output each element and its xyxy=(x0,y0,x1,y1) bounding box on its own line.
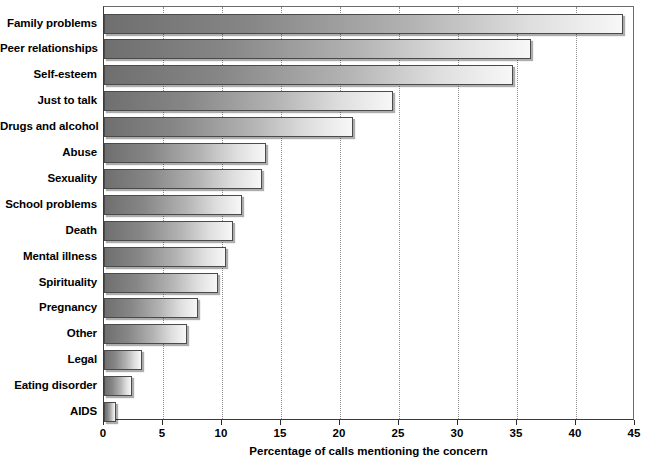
x-tick-label: 30 xyxy=(437,427,477,439)
category-label-other: Other xyxy=(0,323,97,343)
category-label-self-esteem: Self-esteem xyxy=(0,64,97,84)
category-label-sexuality: Sexuality xyxy=(0,168,97,188)
x-tick-label: 40 xyxy=(555,427,595,439)
bar-spirituality xyxy=(104,273,218,293)
bar-row xyxy=(104,221,233,241)
x-tick-mark xyxy=(280,420,281,425)
bar-drugs-and-alcohol xyxy=(104,117,353,137)
bar-row xyxy=(104,247,226,267)
bar-row xyxy=(104,350,142,370)
x-tick-mark xyxy=(339,420,340,425)
x-tick-label: 20 xyxy=(319,427,359,439)
bar-row xyxy=(104,402,116,422)
bar-chart: Family problemsPeer relationshipsSelf-es… xyxy=(0,0,645,468)
bar-mental-illness xyxy=(104,247,226,267)
category-label-school-problems: School problems xyxy=(0,194,97,214)
bar-legal xyxy=(104,350,142,370)
bar-row xyxy=(104,169,262,189)
category-label-abuse: Abuse xyxy=(0,142,97,162)
category-label-family-problems: Family problems xyxy=(0,13,97,33)
x-tick-label: 15 xyxy=(260,427,300,439)
category-label-spirituality: Spirituality xyxy=(0,272,97,292)
bar-pregnancy xyxy=(104,298,198,318)
bar-row xyxy=(104,39,531,59)
x-tick-mark xyxy=(634,420,635,425)
bar-row xyxy=(104,324,187,344)
bar-row xyxy=(104,91,393,111)
category-label-pregnancy: Pregnancy xyxy=(0,297,97,317)
category-label-drugs-and-alcohol: Drugs and alcohol xyxy=(0,116,97,136)
bar-eating-disorder xyxy=(104,376,132,396)
bar-aids xyxy=(104,402,116,422)
bar-row xyxy=(104,14,623,34)
x-tick-label: 35 xyxy=(496,427,536,439)
bar-row xyxy=(104,143,266,163)
bar-row xyxy=(104,298,198,318)
bars-layer xyxy=(104,7,633,419)
x-tick-mark xyxy=(103,420,104,425)
bar-abuse xyxy=(104,143,266,163)
bar-self-esteem xyxy=(104,65,513,85)
bar-family-problems xyxy=(104,14,623,34)
category-label-eating-disorder: Eating disorder xyxy=(0,375,97,395)
category-axis-labels: Family problemsPeer relationshipsSelf-es… xyxy=(0,6,97,420)
bar-school-problems xyxy=(104,195,242,215)
bar-peer-relationships xyxy=(104,39,531,59)
bar-other xyxy=(104,324,187,344)
bar-sexuality xyxy=(104,169,262,189)
x-tick-label: 10 xyxy=(201,427,241,439)
bar-row xyxy=(104,65,513,85)
x-axis: Percentage of calls mentioning the conce… xyxy=(0,420,645,468)
plot-area xyxy=(103,6,634,420)
x-tick-mark xyxy=(516,420,517,425)
x-tick-mark xyxy=(575,420,576,425)
bar-death xyxy=(104,221,233,241)
bar-row xyxy=(104,273,218,293)
x-tick-mark xyxy=(221,420,222,425)
bar-row xyxy=(104,117,353,137)
x-tick-mark xyxy=(457,420,458,425)
x-tick-mark xyxy=(398,420,399,425)
category-label-just-to-talk: Just to talk xyxy=(0,90,97,110)
x-tick-label: 5 xyxy=(142,427,182,439)
x-tick-label: 25 xyxy=(378,427,418,439)
category-label-mental-illness: Mental illness xyxy=(0,246,97,266)
category-label-legal: Legal xyxy=(0,349,97,369)
x-tick-label: 0 xyxy=(83,427,123,439)
x-axis-title: Percentage of calls mentioning the conce… xyxy=(103,445,634,457)
x-tick-mark xyxy=(162,420,163,425)
bar-row xyxy=(104,376,132,396)
category-label-aids: AIDS xyxy=(0,401,97,421)
category-label-peer-relationships: Peer relationships xyxy=(0,38,97,58)
bar-row xyxy=(104,195,242,215)
bar-just-to-talk xyxy=(104,91,393,111)
x-tick-label: 45 xyxy=(614,427,645,439)
category-label-death: Death xyxy=(0,220,97,240)
